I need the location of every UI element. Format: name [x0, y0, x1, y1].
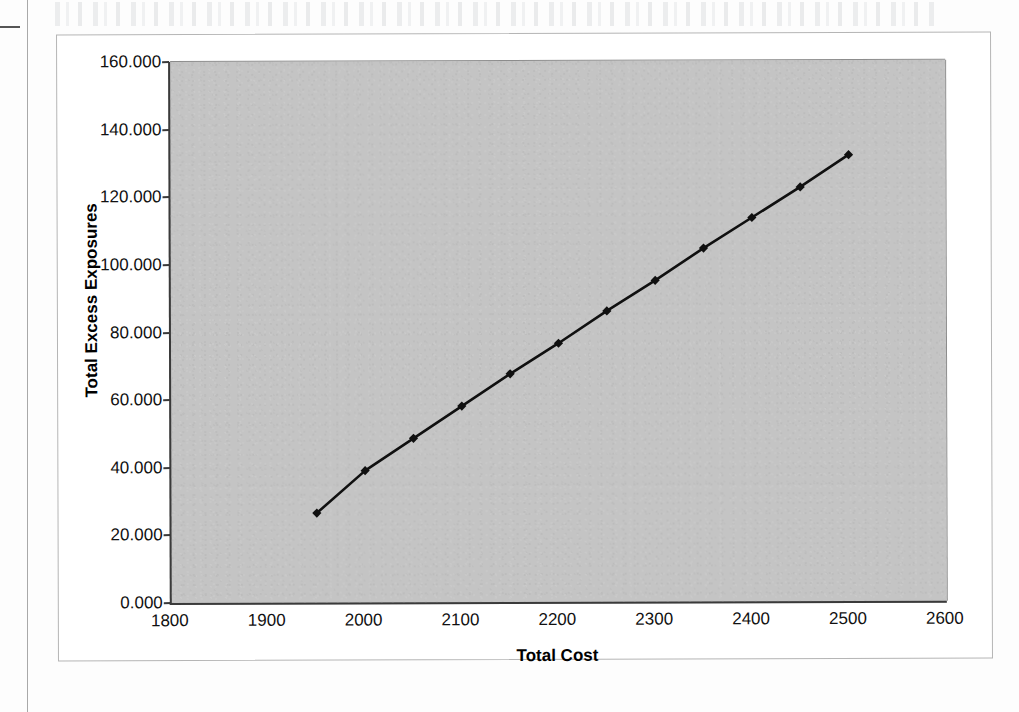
y-axis-tick-label: 100.000	[100, 255, 162, 275]
x-axis-tick-labels: 180019002000210022002300240025002600	[170, 609, 945, 641]
y-axis-tick-label: 160.000	[100, 52, 162, 72]
chart-container: 0.00020.00040.00060.00080.000100.000120.…	[57, 33, 992, 661]
x-axis-tick-label: 2600	[926, 609, 964, 629]
x-axis-tick-label: 2200	[538, 610, 576, 630]
x-axis-tick-label: 2000	[345, 610, 383, 630]
y-axis-tick-label: 60.000	[110, 390, 162, 410]
y-axis-tick-labels: 0.00020.00040.00060.00080.000100.000120.…	[57, 62, 163, 603]
y-axis-tick-mark	[162, 129, 169, 131]
y-axis-title: Total Excess Exposures	[81, 170, 102, 430]
y-axis-tick-label: 20.000	[111, 526, 163, 546]
y-axis-tick-label: 140.000	[100, 120, 162, 140]
x-axis-title: Total Cost	[170, 645, 945, 667]
y-axis-tick-mark	[163, 196, 170, 198]
y-axis-tick-mark	[164, 534, 171, 536]
y-axis-tick-mark	[163, 399, 170, 401]
y-axis-tick-label: 40.000	[110, 458, 162, 478]
x-axis-tick-label: 2500	[829, 609, 867, 629]
x-axis-tick-label: 2300	[635, 610, 673, 630]
x-axis-tick-label: 2100	[442, 610, 480, 630]
y-axis-tick-mark	[163, 332, 170, 334]
y-axis-tick-mark	[163, 264, 170, 266]
scan-margin-dash	[0, 26, 20, 28]
y-axis-tick-mark	[163, 467, 170, 469]
x-axis-tick-label: 1800	[151, 611, 189, 631]
x-axis-tick-label: 1900	[248, 611, 286, 631]
y-axis-tick-mark	[162, 61, 169, 63]
data-series-line	[170, 60, 947, 603]
scan-margin-rule	[27, 0, 28, 712]
scan-bleed-through-text	[55, 2, 935, 26]
chart-figure-frame: 0.00020.00040.00060.00080.000100.000120.…	[56, 32, 993, 662]
plot-area	[168, 60, 947, 605]
y-axis-tick-label: 80.000	[110, 323, 162, 343]
y-axis-tick-label: 120.000	[100, 187, 162, 207]
y-axis-tick-mark	[164, 602, 171, 604]
x-axis-tick-label: 2400	[732, 609, 770, 629]
series-line	[316, 155, 850, 513]
